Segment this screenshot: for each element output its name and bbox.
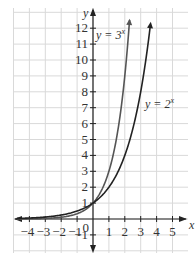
x-tick-label: 4 [153,224,160,239]
label-3-pow-x: y = 3x [95,27,125,42]
y-tick-label: 9 [82,68,89,83]
x-axis-arrow-right-icon [179,216,187,222]
exponential-graph: −4−3−2−112345−11234567891011120xy y = 3x… [0,0,196,274]
x-tick-label: −4 [20,224,34,239]
y-tick-label: 2 [82,179,89,194]
axes [14,8,187,253]
y-axis-arrow-down-icon [90,245,96,253]
x-tick-label: 2 [122,224,129,239]
label-2-pow-x: y = 2x [144,96,174,111]
x-tick-label: −3 [36,224,50,239]
x-axis-label: x [188,218,195,232]
y-tick-label: 8 [82,84,89,99]
y-tick-label: 4 [82,147,89,162]
y-tick-label: 3 [82,163,89,178]
y-tick-label: 11 [75,36,88,51]
y-tick-label: 7 [82,100,89,115]
x-tick-label: 1 [106,224,113,239]
y-tick-label: 6 [82,116,89,131]
y-tick-label: 10 [75,52,88,67]
y-axis-label: y [82,6,89,20]
curve-2-pow-x-arrow-icon [147,22,153,29]
curve-3-pow-x [17,20,130,219]
curve-3-pow-x-arrow-icon [126,19,132,26]
curve-labels: y = 3xy = 2x [95,27,174,111]
y-tick-label: 12 [75,20,88,35]
x-tick-label: 3 [137,224,144,239]
y-tick-label: 5 [82,132,89,147]
grid [13,8,188,253]
origin-label: 0 [83,220,90,235]
x-tick-label: 5 [169,224,176,239]
x-tick-label: −2 [52,224,66,239]
